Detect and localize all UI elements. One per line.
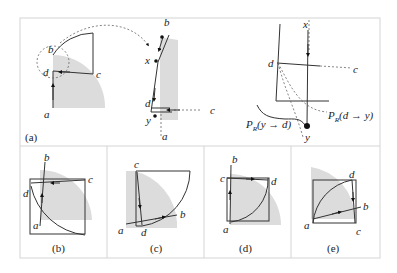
label-x: x (144, 54, 150, 66)
label-pr-y-to-d: PR(y → d) (245, 118, 292, 133)
caption-c: (c) (150, 242, 163, 255)
label-x: x (302, 18, 308, 30)
caption-a: (a) (25, 131, 38, 144)
label-a: a (223, 223, 229, 235)
figure-frame (20, 18, 380, 258)
label-b: b (232, 153, 238, 165)
label-b: b (44, 151, 50, 163)
label-c: c (356, 225, 361, 237)
label-a: a (118, 224, 124, 236)
label-d: d (268, 57, 274, 69)
panel-d: b c d a (d) (220, 153, 281, 255)
point-top (160, 35, 164, 39)
label-a: a (162, 130, 168, 142)
edge-d-c (277, 63, 320, 66)
caption-b: (b) (52, 242, 65, 255)
panel-a-middle: b x d y c a (144, 16, 215, 142)
dashed-to-c (320, 66, 352, 68)
label-d: d (141, 226, 147, 238)
label-y: y (304, 131, 310, 143)
point-y (304, 123, 310, 129)
label-b: b (180, 208, 186, 220)
label-pr-d-to-y: PR(d → y) (327, 109, 374, 124)
label-c: c (96, 68, 101, 80)
caption-d: (d) (239, 242, 252, 255)
shaded-quarter-disc-fill (53, 55, 105, 108)
label-c: c (220, 172, 225, 184)
label-c: c (88, 173, 93, 185)
panel-b: b c d a (b) (23, 151, 93, 255)
label-b: b (363, 200, 369, 212)
label-c: c (210, 104, 215, 116)
label-a: a (44, 108, 50, 120)
label-b: b (48, 43, 54, 55)
panel-a: b d c a b x d y c a (25, 16, 374, 144)
label-d: d (23, 187, 29, 199)
label-y: y (145, 114, 151, 126)
label-d: d (43, 66, 49, 78)
panel-a-left: b d c a (37, 25, 148, 120)
label-a: a (33, 219, 39, 231)
label-a: a (304, 219, 310, 231)
label-d: d (349, 168, 355, 180)
vertical-edge (276, 24, 280, 101)
shaded-quarter-disc (40, 170, 92, 220)
panel-a-right: x d c y PR(y → d) PR(d → y) (245, 18, 374, 143)
figure-diagram: b d c a b x d y c a (0, 0, 397, 273)
point-y (153, 114, 157, 118)
label-b: b (164, 16, 170, 28)
panel-e: d b a c (e) (304, 167, 369, 255)
label-d: d (145, 97, 151, 109)
caption-e: (e) (327, 242, 340, 255)
panel-c: c b a d (c) (118, 158, 190, 255)
label-c: c (134, 158, 139, 170)
label-d: d (271, 175, 277, 187)
point-x (154, 59, 158, 63)
dashed-arc-arrow (60, 25, 148, 45)
label-c: c (353, 63, 358, 75)
